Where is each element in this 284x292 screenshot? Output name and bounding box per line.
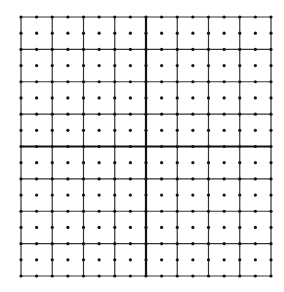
grid-dot xyxy=(51,48,54,51)
grid-dot xyxy=(191,274,194,277)
grid-dot xyxy=(269,48,272,51)
grid-dot xyxy=(176,177,179,180)
grid-dot xyxy=(254,210,257,213)
grid-dot xyxy=(269,64,272,67)
grid-dot xyxy=(223,48,226,51)
grid-dot xyxy=(129,96,132,99)
grid-dot xyxy=(254,242,257,245)
grid-dot xyxy=(238,242,241,245)
grid-dot xyxy=(191,64,194,67)
grid-dot xyxy=(113,113,116,116)
grid-dot xyxy=(98,32,101,35)
grid-dot xyxy=(98,48,101,51)
grid-dot xyxy=(113,210,116,213)
grid-dot xyxy=(160,242,163,245)
grid-dot xyxy=(207,193,210,196)
grid-dot xyxy=(144,258,147,261)
grid-dot xyxy=(207,242,210,245)
grid-dot xyxy=(144,80,147,83)
grid-dot xyxy=(238,129,241,132)
grid-dot xyxy=(160,210,163,213)
grid-dot xyxy=(223,274,226,277)
grid-dot xyxy=(19,64,22,67)
grid-dot xyxy=(35,226,38,229)
grid-dot xyxy=(113,258,116,261)
grid-dot xyxy=(207,226,210,229)
grid-dot xyxy=(191,129,194,132)
grid-dot xyxy=(223,226,226,229)
grid-dot xyxy=(269,32,272,35)
grid-dot xyxy=(82,242,85,245)
grid-dot xyxy=(19,161,22,164)
grid-dot xyxy=(98,145,101,148)
grid-dot xyxy=(51,193,54,196)
grid-dot xyxy=(51,80,54,83)
grid-dot xyxy=(176,15,179,18)
grid-dot xyxy=(35,274,38,277)
grid-dot xyxy=(66,113,69,116)
grid-dot xyxy=(113,96,116,99)
grid-dot xyxy=(176,64,179,67)
grid-dot xyxy=(82,129,85,132)
grid-dot xyxy=(113,15,116,18)
grid-dot xyxy=(129,145,132,148)
grid-dot xyxy=(35,193,38,196)
grid-dot xyxy=(113,226,116,229)
grid-dot xyxy=(223,177,226,180)
grid-dot xyxy=(51,258,54,261)
grid-dot xyxy=(160,177,163,180)
grid-dot xyxy=(254,80,257,83)
grid-dot xyxy=(144,113,147,116)
grid-dot xyxy=(51,242,54,245)
grid-dot xyxy=(223,113,226,116)
grid-dot xyxy=(113,129,116,132)
grid-dot xyxy=(223,193,226,196)
grid-dot xyxy=(176,96,179,99)
grid-dot xyxy=(113,177,116,180)
grid-dot xyxy=(82,161,85,164)
grid-dot xyxy=(176,113,179,116)
grid-dot xyxy=(144,129,147,132)
grid-dot xyxy=(51,210,54,213)
grid-dot xyxy=(144,32,147,35)
grid-dot xyxy=(82,113,85,116)
grid-dot xyxy=(269,242,272,245)
grid-dot xyxy=(160,193,163,196)
grid-dot xyxy=(223,129,226,132)
grid-dot xyxy=(191,80,194,83)
grid-dot xyxy=(269,177,272,180)
grid-dot xyxy=(51,274,54,277)
grid-dot xyxy=(160,80,163,83)
grid-dot xyxy=(269,96,272,99)
grid-dot xyxy=(269,113,272,116)
grid-dot xyxy=(176,258,179,261)
grid-dot xyxy=(66,48,69,51)
grid-dot xyxy=(238,210,241,213)
grid-dot xyxy=(35,177,38,180)
grid-dot xyxy=(254,193,257,196)
grid-dot xyxy=(207,129,210,132)
grid-dot xyxy=(223,64,226,67)
grid-dot xyxy=(66,258,69,261)
grid-dot xyxy=(113,274,116,277)
grid-dot xyxy=(238,161,241,164)
grid-dot xyxy=(254,113,257,116)
grid-dot xyxy=(207,145,210,148)
grid-dot xyxy=(19,15,22,18)
grid-dot xyxy=(160,96,163,99)
grid-dot xyxy=(191,177,194,180)
grid-dot xyxy=(66,193,69,196)
grid-dot xyxy=(98,193,101,196)
grid-dot xyxy=(254,32,257,35)
grid-dot xyxy=(51,129,54,132)
grid-dot xyxy=(51,15,54,18)
grid-dot xyxy=(254,96,257,99)
grid-dot xyxy=(238,226,241,229)
grid-dot xyxy=(191,48,194,51)
grid-dot xyxy=(35,145,38,148)
grid-dot xyxy=(223,161,226,164)
grid-dot xyxy=(82,210,85,213)
grid-dot xyxy=(269,129,272,132)
grid-dot xyxy=(82,96,85,99)
grid-dot xyxy=(51,161,54,164)
